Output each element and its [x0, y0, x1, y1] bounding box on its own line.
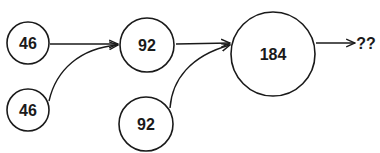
- node-46-bottom: 46: [7, 89, 49, 131]
- edge-n2-to-n3: [49, 45, 118, 101]
- output-unknown-label: ??: [356, 35, 376, 52]
- node-46-top: 46: [7, 22, 49, 64]
- node-92-bottom: 92: [119, 97, 173, 151]
- node-92-top: 92: [120, 18, 174, 72]
- node-label: 46: [19, 102, 37, 119]
- node-label: 46: [19, 35, 37, 52]
- node-label: 92: [138, 37, 156, 54]
- edge-n4-to-n5: [170, 45, 230, 108]
- node-184: 184: [231, 12, 315, 96]
- node-label: 184: [260, 46, 287, 63]
- node-label: 92: [137, 116, 155, 133]
- doubling-diagram: 46 46 92 92 184 ??: [0, 0, 380, 153]
- edge-n3-to-n5: [176, 43, 230, 44]
